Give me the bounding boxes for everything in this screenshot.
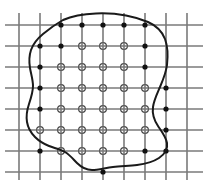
boundary-node-marker-2 bbox=[100, 22, 105, 27]
boundary-node-marker-11 bbox=[163, 85, 168, 90]
boundary-node-marker-12 bbox=[37, 106, 42, 111]
boundary-node-marker-13 bbox=[163, 106, 168, 111]
boundary-node-marker-3 bbox=[121, 22, 126, 27]
boundary-node-marker-9 bbox=[142, 64, 147, 69]
boundary-node-marker-1 bbox=[79, 22, 84, 27]
boundary-node-marker-8 bbox=[37, 64, 42, 69]
boundary-node-marker-4 bbox=[142, 22, 147, 27]
boundary-node-marker-18 bbox=[100, 169, 105, 174]
interior-node-group bbox=[37, 43, 149, 155]
boundary-node-marker-14 bbox=[163, 127, 168, 132]
figure-container bbox=[0, 0, 210, 186]
boundary-node-marker-5 bbox=[37, 43, 42, 48]
boundary-node-marker-6 bbox=[58, 43, 63, 48]
boundary-node-marker-7 bbox=[142, 43, 147, 48]
boundary-node-marker-10 bbox=[37, 85, 42, 90]
boundary-node-marker-16 bbox=[142, 148, 147, 153]
grid-region-figure bbox=[0, 0, 210, 186]
boundary-node-marker-15 bbox=[37, 148, 42, 153]
